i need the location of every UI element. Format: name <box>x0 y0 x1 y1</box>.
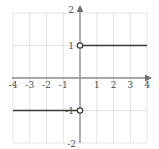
y-tick-label-neg2: -2 <box>67 139 76 149</box>
coordinate-plane-graph: -4 -3 -2 -1 1 2 3 4 2 1 -1 -2 <box>0 0 159 149</box>
x-tick-label-pos2: 2 <box>111 80 117 90</box>
open-circle-marker <box>77 43 82 48</box>
axes <box>12 5 152 143</box>
x-tick-label-neg1: -1 <box>59 80 68 90</box>
y-tick-label-pos1: 1 <box>68 41 74 51</box>
x-tick-label-pos3: 3 <box>127 80 133 90</box>
graph-svg: -4 -3 -2 -1 1 2 3 4 2 1 -1 -2 <box>0 0 159 149</box>
y-tick-label-neg1: -1 <box>65 106 74 116</box>
x-tick-label-neg2: -2 <box>42 80 51 90</box>
open-circle-marker <box>77 108 82 113</box>
x-tick-label-neg3: -3 <box>25 80 34 90</box>
x-tick-label-pos1: 1 <box>94 80 100 90</box>
x-tick-label-pos4: 4 <box>144 80 150 90</box>
x-tick-label-neg4: -4 <box>9 80 18 90</box>
y-tick-label-pos2: 2 <box>68 5 74 15</box>
y-axis-arrow-icon <box>77 5 84 12</box>
